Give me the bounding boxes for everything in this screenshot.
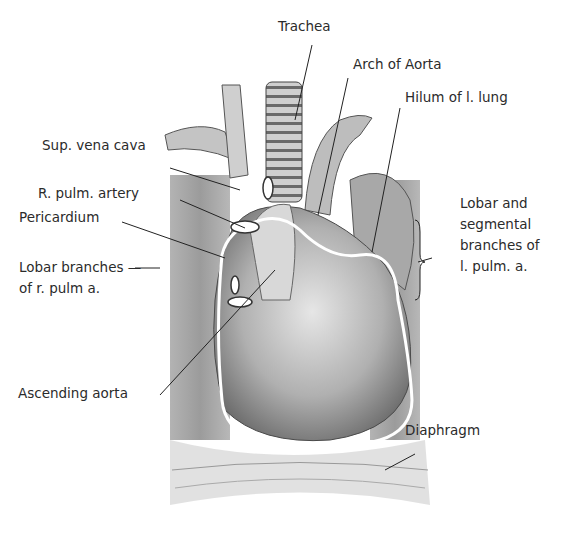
label-arch-of-aorta: Arch of Aorta — [353, 55, 441, 73]
sup-vena-cava-vessel — [222, 85, 248, 178]
label-trachea: Trachea — [278, 17, 331, 35]
label-lobar-segmental-l-pulm: Lobar and segmental branches of l. pulm.… — [460, 193, 540, 277]
label-ascending-aorta: Ascending aorta — [18, 384, 128, 402]
label-sup-vena-cava: Sup. vena cava — [42, 136, 146, 154]
label-hilum-of-l-lung: Hilum of l. lung — [405, 88, 508, 106]
r-pulm-artery-cut — [263, 177, 273, 199]
lobar-cut-1 — [231, 276, 239, 294]
label-pericardium: Pericardium — [19, 208, 99, 226]
brachiocephalic-vessel — [165, 127, 235, 160]
label-lobar-branches-r-pulm: Lobar branches — of r. pulm a. — [19, 257, 141, 299]
label-r-pulm-artery: R. pulm. artery — [38, 184, 139, 202]
pericardium-cut — [231, 221, 259, 233]
label-diaphragm: Diaphragm — [405, 421, 480, 439]
